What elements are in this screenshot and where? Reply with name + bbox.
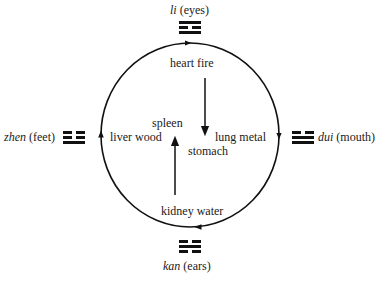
- trigram-dui-icon: [292, 131, 314, 144]
- trigram-li-icon: [179, 21, 201, 34]
- trigram-zhen-icon: [63, 131, 85, 144]
- stomach-label: stomach: [188, 144, 228, 158]
- trigram-dui-label: dui (mouth): [318, 130, 375, 144]
- trigram-zhen-name: zhen: [4, 130, 26, 144]
- trigram-dui-meaning: (mouth): [336, 130, 375, 144]
- trigram-kan-label: kan (ears): [163, 259, 211, 273]
- spleen-label: spleen: [152, 116, 183, 130]
- trigram-zhen-meaning: (feet): [29, 130, 55, 144]
- trigram-kan-name: kan: [163, 259, 180, 273]
- trigram-li-meaning: (eyes): [180, 3, 209, 17]
- trigram-li-name: li: [170, 3, 177, 17]
- trigram-zhen-label: zhen (feet): [4, 130, 55, 144]
- trigram-li-label: li (eyes): [170, 3, 209, 17]
- liver-wood-label: liver wood: [110, 130, 162, 144]
- heart-fire-label: heart fire: [170, 56, 214, 70]
- trigram-kan-meaning: (ears): [183, 259, 210, 273]
- lung-metal-label: lung metal: [215, 130, 266, 144]
- kidney-water-label: kidney water: [161, 204, 223, 218]
- trigram-kan-icon: [179, 240, 201, 253]
- trigram-dui-name: dui: [318, 130, 333, 144]
